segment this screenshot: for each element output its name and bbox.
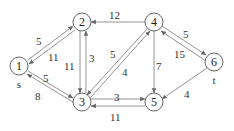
node-1-label: 1: [16, 59, 22, 73]
node-5-label: 5: [151, 95, 157, 109]
edge-4-3: [87, 29, 147, 95]
weight-4-6: 5: [183, 28, 189, 40]
weight-4-2: 12: [109, 9, 120, 21]
edge-3-4: [90, 31, 150, 98]
node-2-label: 2: [79, 15, 85, 29]
weight-1-3: 5: [43, 72, 49, 84]
sink-label: t: [212, 74, 215, 86]
node-2: 2: [73, 13, 91, 31]
edge-3-1: [27, 74, 73, 102]
node-3-label: 3: [79, 95, 85, 109]
weight-5-3: 11: [110, 111, 121, 123]
weight-4-5: 7: [156, 60, 162, 72]
weight-2-1: 11: [48, 51, 59, 63]
node-3: 3: [73, 93, 91, 111]
weight-6-5: 4: [184, 88, 190, 100]
weight-1-2: 5: [36, 35, 42, 47]
node-6: 6 t: [205, 53, 223, 86]
weight-4-3: 5: [110, 48, 116, 60]
node-5: 5: [145, 93, 163, 111]
weight-3-2: 3: [89, 52, 95, 64]
graph-diagram: 5 11 5 8 11 3 12 5 4 3 11 7 5 15 4 1 s 2…: [0, 0, 234, 131]
weight-6-4: 15: [174, 48, 186, 60]
node-6-label: 6: [211, 55, 217, 69]
source-label: s: [17, 78, 21, 90]
weight-3-1: 8: [35, 90, 41, 102]
node-4: 4: [145, 13, 163, 31]
weight-2-3: 11: [64, 60, 75, 72]
node-4-label: 4: [151, 15, 157, 29]
weight-3-4: 4: [122, 66, 128, 78]
node-1: 1 s: [10, 57, 28, 90]
weight-3-5: 3: [114, 91, 120, 103]
